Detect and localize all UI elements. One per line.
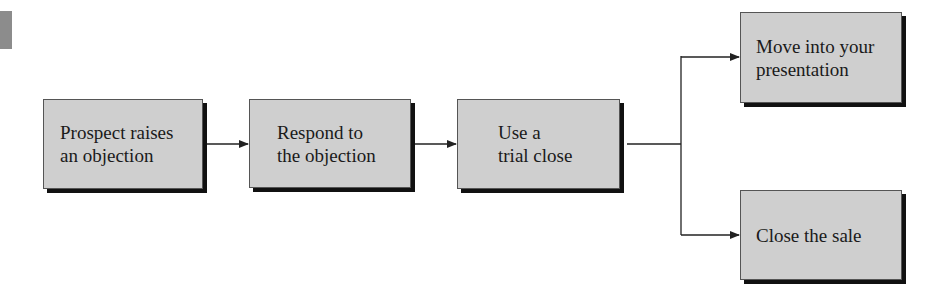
node-respond-to-objection: Respond to the objection [249, 99, 411, 188]
node-label: Use a trial close [498, 121, 572, 167]
node-label: Prospect raises an objection [60, 121, 173, 167]
node-label: Move into your presentation [756, 35, 874, 81]
node-label: Close the sale [756, 224, 862, 247]
node-move-into-presentation: Move into your presentation [740, 12, 902, 103]
node-label: Respond to the objection [277, 121, 376, 167]
node-use-trial-close: Use a trial close [457, 99, 620, 189]
node-close-the-sale: Close the sale [740, 190, 902, 280]
node-prospect-raises-objection: Prospect raises an objection [43, 99, 203, 189]
